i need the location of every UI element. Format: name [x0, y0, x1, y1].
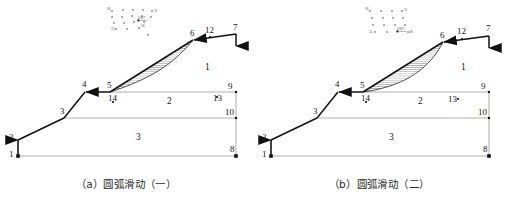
node-label-6-b: 6 [440, 30, 445, 40]
node-marker-8-a [234, 154, 238, 158]
zone-label-3-b: 3 [389, 132, 394, 142]
node-label-12-a: 12 [205, 25, 214, 35]
node-label-2-a: 2 [9, 132, 14, 142]
node-marker-10-a [235, 117, 237, 119]
zone-label-2-b: 2 [418, 96, 423, 106]
cluster-scale-b: 0.007 [397, 27, 404, 31]
node-label-1-b: 1 [262, 149, 267, 159]
node-label-10-a: 10 [225, 107, 235, 117]
node-label-3-b: 3 [313, 106, 318, 116]
zone-label-1-b: 1 [461, 62, 466, 72]
node-label-12-b: 12 [457, 26, 466, 36]
node-marker-1-a [16, 154, 20, 158]
cluster-label-18-a: 18 [141, 24, 145, 28]
slope-diagram-b: 1 2 3 4 5 6 7 8 9 10 12 13 14 1 2 3 [253, 0, 505, 172]
slope-diagram-a: 1 2 3 4 5 6 7 8 9 10 12 13 14 1 2 3 [0, 0, 252, 172]
node-label-4-b: 4 [335, 79, 340, 89]
node-label-5-a: 5 [107, 80, 112, 90]
node-markers-a [16, 36, 238, 158]
node-marker-9-a [235, 91, 237, 93]
node-label-4-a: 4 [82, 79, 87, 89]
slope-profile-a [18, 34, 236, 156]
diagram-panel-a: 1 2 3 4 5 6 7 8 9 10 12 13 14 1 2 3 [0, 0, 252, 203]
cluster-label-15-a: 15 [111, 27, 115, 31]
node-markers-b [269, 38, 491, 158]
segment-2-3-a [18, 118, 64, 140]
cluster-label-11-a: 11 [154, 9, 158, 13]
cluster-scale-a: 0.007 [138, 16, 145, 20]
zone-label-1-a: 1 [205, 62, 210, 72]
node-label-7-a: 7 [233, 22, 238, 32]
node-label-8-b: 8 [483, 144, 488, 154]
cluster-label-16-a: 16 [107, 7, 111, 11]
segment-3-4-b [317, 92, 338, 118]
node-label-13-b: 13 [448, 94, 458, 104]
cluster-label-11-b: 11 [404, 8, 408, 12]
caption-b: （b）圆弧滑动（二） [253, 176, 505, 191]
node-marker-10-b [488, 117, 490, 119]
caption-a: （a）圆弧滑动（一） [0, 176, 252, 191]
point-cluster-a: 16 11 15 18 0.007 [107, 7, 158, 36]
node-marker-13-b [457, 98, 459, 100]
diagram-panel-b: 1 2 3 4 5 6 7 8 9 10 12 13 14 1 2 3 [253, 0, 505, 203]
cluster-label-16-b: 16 [365, 7, 369, 11]
node-label-6-a: 6 [190, 28, 195, 38]
node-label-2-b: 2 [262, 132, 267, 142]
node-marker-12-a [209, 36, 211, 38]
node-marker-1-b [269, 154, 273, 158]
segment-2-3-b [271, 118, 317, 140]
cluster-label-15-b: 15 [369, 30, 373, 34]
segment-7-6-a [194, 34, 236, 40]
node-label-3-a: 3 [60, 106, 65, 116]
node-marker-12-b [461, 38, 463, 40]
segment-5-6-a [110, 40, 193, 92]
node-marker-9-b [488, 91, 490, 93]
node-label-13-a: 13 [213, 93, 223, 103]
segment-5-6-b [363, 42, 443, 92]
node-labels-a: 1 2 3 4 5 6 7 8 9 10 12 13 14 [9, 22, 238, 159]
segment-3-4-a [64, 92, 85, 118]
node-label-7-b: 7 [486, 23, 491, 33]
node-label-10-b: 10 [478, 107, 488, 117]
node-label-9-a: 9 [228, 81, 233, 91]
node-label-9-b: 9 [481, 81, 486, 91]
point-cluster-b: 16 11 15 18 0.007 [365, 7, 413, 34]
node-label-1-a: 1 [9, 149, 14, 159]
zone-label-2-a: 2 [167, 96, 172, 106]
segment-7-6-b [444, 36, 489, 42]
node-label-5-b: 5 [360, 80, 365, 90]
figure-root: 1 2 3 4 5 6 7 8 9 10 12 13 14 1 2 3 [0, 0, 505, 203]
zone-label-3-a: 3 [136, 132, 141, 142]
node-label-14-b: 14 [361, 93, 371, 103]
cluster-label-18-b: 18 [409, 30, 413, 34]
node-label-8-a: 8 [230, 144, 235, 154]
node-label-14-a: 14 [108, 93, 118, 103]
node-marker-8-b [487, 154, 491, 158]
node-labels-b: 1 2 3 4 5 6 7 8 9 10 12 13 14 [262, 23, 491, 159]
